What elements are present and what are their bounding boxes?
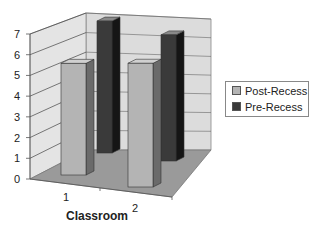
x-tick-label-2: 2: [132, 202, 138, 214]
y-tick-label: 3: [14, 111, 20, 123]
y-tick-label: 2: [14, 132, 20, 144]
legend-swatch-pre-recess: [232, 102, 241, 111]
x-tick-label-1: 1: [63, 191, 69, 203]
legend-swatch-post-recess: [232, 86, 241, 95]
y-tick-label: 7: [14, 28, 20, 40]
y-tick-label: 0: [14, 173, 20, 185]
y-tick-label: 4: [14, 90, 20, 102]
y-tick-label: 6: [14, 49, 20, 61]
y-tick-label: 1: [14, 152, 20, 164]
legend-label: Post-Recess: [245, 85, 307, 97]
y-axis-ticks: 01234567: [14, 28, 30, 185]
y-tick-label: 5: [14, 69, 20, 81]
legend: Post-Recess Pre-Recess: [225, 81, 309, 117]
legend-item-pre-recess: Pre-Recess: [232, 101, 302, 113]
legend-label: Pre-Recess: [245, 101, 302, 113]
legend-item-post-recess: Post-Recess: [232, 85, 307, 97]
x-axis-title: Classroom: [66, 209, 128, 223]
